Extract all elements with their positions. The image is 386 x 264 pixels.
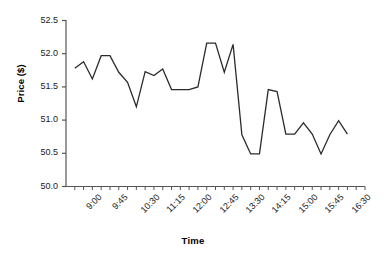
- price-series-line: [75, 43, 348, 154]
- plot-area: [0, 0, 386, 264]
- price-time-line-chart: Price ($) Time 52.552.051.551.050.550.0 …: [0, 0, 386, 264]
